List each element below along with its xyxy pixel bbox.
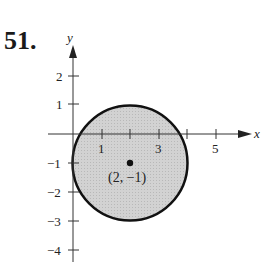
y-tick-label-2: 2: [56, 69, 63, 84]
x-tick-label-1: 1: [98, 141, 105, 156]
center-point: [127, 160, 133, 166]
x-axis-arrow-icon: [238, 130, 252, 138]
x-tick-label-5: 5: [212, 141, 219, 156]
y-tick-label-1: 1: [56, 97, 63, 112]
y-tick-label-neg4: −4: [47, 243, 61, 258]
x-tick-label-3: 3: [155, 141, 162, 156]
coordinate-plot: x y 1 3 5 2 1 −1 −2 −3 −4 (2, −1): [0, 0, 266, 267]
y-tick-label-neg3: −3: [47, 214, 61, 229]
y-axis-label: y: [65, 30, 73, 45]
y-tick-label-neg2: −2: [47, 185, 61, 200]
y-tick-label-neg1: −1: [47, 156, 61, 171]
y-axis-arrow-icon: [69, 45, 77, 58]
center-point-label: (2, −1): [108, 170, 147, 186]
x-axis-label: x: [253, 126, 260, 141]
